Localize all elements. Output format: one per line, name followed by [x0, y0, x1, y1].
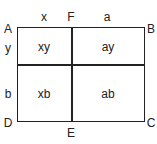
vertex-B: B	[147, 23, 155, 35]
vertex-F: F	[67, 11, 74, 23]
vertex-E: E	[67, 127, 75, 139]
outer-rectangle-ABCD	[17, 27, 145, 122]
segment-label-y: y	[5, 42, 11, 54]
vertex-C: C	[147, 117, 156, 129]
segment-label-b: b	[5, 88, 12, 100]
vertex-A: A	[4, 23, 12, 35]
region-xb: xb	[38, 88, 51, 100]
segment-label-x: x	[41, 11, 47, 23]
region-xy: xy	[38, 41, 50, 53]
vertex-D: D	[4, 117, 13, 129]
divider-horizontal	[17, 64, 145, 66]
region-ab: ab	[101, 88, 114, 100]
divider-FE	[71, 27, 73, 122]
region-ay: ay	[102, 41, 115, 53]
segment-label-a: a	[104, 11, 111, 23]
